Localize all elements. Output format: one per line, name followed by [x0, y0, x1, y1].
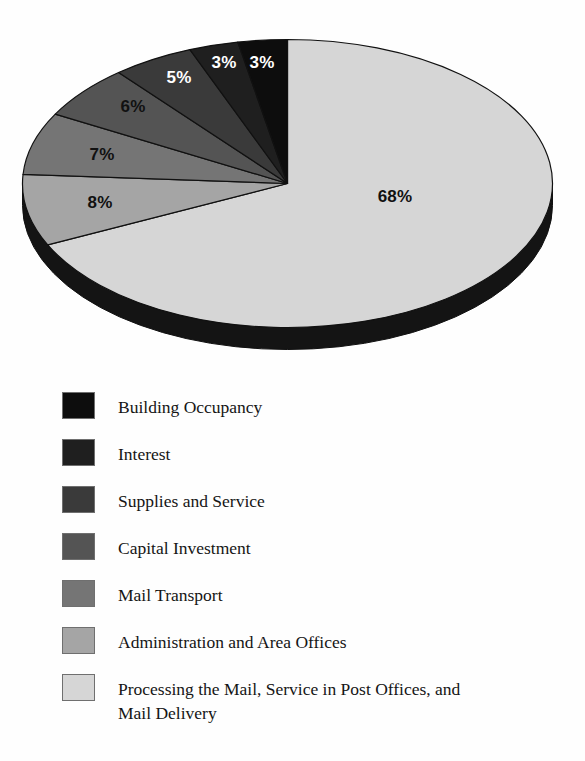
pie-chart-graphic	[0, 0, 585, 372]
legend-swatch	[62, 392, 95, 419]
legend-item-label: Mail Transport	[118, 583, 223, 607]
legend-item[interactable]: Administration and Area Offices	[62, 627, 347, 654]
legend-item-label: Administration and Area Offices	[118, 630, 347, 654]
legend-item[interactable]: Supplies and Service	[62, 486, 265, 513]
legend-item[interactable]: Building Occupancy	[62, 392, 262, 419]
pie-slices	[22, 40, 552, 328]
legend-swatch	[62, 627, 95, 654]
legend-swatch	[62, 580, 95, 607]
legend-item-label: Processing the Mail, Service in Post Off…	[118, 677, 460, 725]
legend-item-label: Interest	[118, 442, 170, 466]
legend-item-label: Supplies and Service	[118, 489, 265, 513]
legend-swatch	[62, 533, 95, 560]
legend-item[interactable]: Processing the Mail, Service in Post Off…	[62, 674, 460, 725]
legend-swatch	[62, 486, 95, 513]
legend-swatch	[62, 674, 95, 701]
legend-item[interactable]: Mail Transport	[62, 580, 223, 607]
legend-item[interactable]: Capital Investment	[62, 533, 251, 560]
legend-swatch	[62, 439, 95, 466]
legend-item-label: Building Occupancy	[118, 395, 262, 419]
legend-item-label: Capital Investment	[118, 536, 251, 560]
legend-item[interactable]: Interest	[62, 439, 170, 466]
pie-chart: 68%8%7%6%5%3%3%	[0, 0, 585, 372]
